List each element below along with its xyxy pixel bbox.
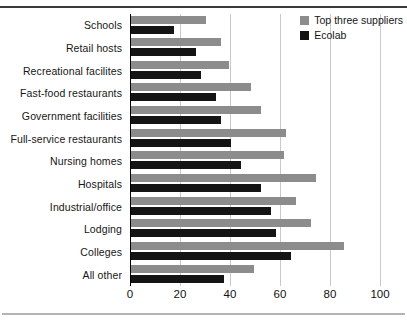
category-label: Lodging — [0, 218, 126, 241]
category-label: Schools — [0, 14, 126, 37]
category-label: Industrial/office — [0, 195, 126, 218]
bar-ecolab — [131, 184, 261, 192]
bar-top-three-suppliers — [131, 61, 229, 69]
legend-swatch-icon — [300, 16, 309, 25]
category-label: Colleges — [0, 241, 126, 264]
bar-top-three-suppliers — [131, 83, 251, 91]
bar-row — [130, 241, 380, 264]
bar-top-three-suppliers — [131, 219, 311, 227]
category-label: Nursing homes — [0, 150, 126, 173]
legend-label: Ecolab — [314, 29, 346, 41]
category-label: Retail hosts — [0, 37, 126, 60]
gridline-100 — [380, 14, 381, 286]
bar-rows — [130, 14, 380, 286]
x-tick-label: 20 — [174, 288, 187, 300]
bar-ecolab — [131, 48, 196, 56]
bar-chart-figure: SchoolsRetail hostsRecreational facilite… — [0, 0, 407, 324]
bar-ecolab — [131, 116, 221, 124]
bottom-divider-rule — [2, 313, 405, 315]
bar-ecolab — [131, 207, 271, 215]
bar-row — [130, 105, 380, 128]
category-label: All other — [0, 263, 126, 286]
legend-item: Top three suppliers — [300, 14, 403, 26]
x-tick-label: 0 — [127, 288, 133, 300]
bar-row — [130, 59, 380, 82]
bar-top-three-suppliers — [131, 174, 316, 182]
bar-row — [130, 195, 380, 218]
bar-ecolab — [131, 275, 224, 283]
x-axis-tick-labels: 020406080100 — [130, 288, 380, 308]
legend-item: Ecolab — [300, 29, 403, 41]
category-label: Full-service restaurants — [0, 127, 126, 150]
x-tick-label: 60 — [274, 288, 287, 300]
legend-swatch-icon — [300, 31, 309, 40]
category-label: Hospitals — [0, 173, 126, 196]
category-label: Fast-food restaurants — [0, 82, 126, 105]
bar-ecolab — [131, 93, 216, 101]
bar-row — [130, 173, 380, 196]
x-tick-label: 40 — [224, 288, 237, 300]
bar-top-three-suppliers — [131, 242, 344, 250]
bar-top-three-suppliers — [131, 129, 286, 137]
x-tick-label: 80 — [324, 288, 337, 300]
category-axis-labels: SchoolsRetail hostsRecreational facilite… — [0, 14, 126, 286]
bar-ecolab — [131, 26, 174, 34]
legend-label: Top three suppliers — [314, 14, 403, 26]
bar-ecolab — [131, 161, 241, 169]
bar-top-three-suppliers — [131, 197, 296, 205]
bar-ecolab — [131, 139, 231, 147]
x-tick-label: 100 — [370, 288, 389, 300]
bar-ecolab — [131, 71, 201, 79]
bar-row — [130, 82, 380, 105]
bar-top-three-suppliers — [131, 16, 206, 24]
category-label: Government facilities — [0, 105, 126, 128]
bar-top-three-suppliers — [131, 106, 261, 114]
bar-top-three-suppliers — [131, 265, 254, 273]
plot-area — [130, 14, 380, 286]
bar-top-three-suppliers — [131, 151, 284, 159]
bar-row — [130, 263, 380, 286]
top-divider-rule — [0, 6, 407, 8]
bar-ecolab — [131, 252, 291, 260]
bar-row — [130, 150, 380, 173]
bar-row — [130, 218, 380, 241]
category-label: Recreational facilites — [0, 59, 126, 82]
bar-row — [130, 127, 380, 150]
bar-ecolab — [131, 229, 276, 237]
chart-legend: Top three suppliersEcolab — [300, 14, 403, 41]
bar-top-three-suppliers — [131, 38, 221, 46]
